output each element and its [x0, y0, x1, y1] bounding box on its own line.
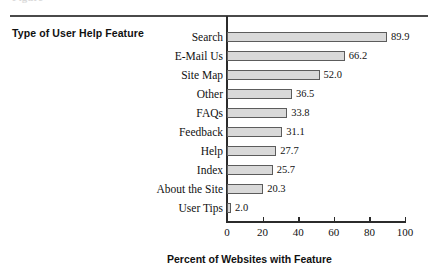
- bar-row: Index25.7: [0, 161, 441, 180]
- x-axis-tick-label: 60: [319, 226, 349, 238]
- category-label: Feedback: [179, 126, 223, 138]
- bar-row: Other36.5: [0, 85, 441, 104]
- x-axis-tick-label: 20: [248, 226, 278, 238]
- x-axis-line: [226, 221, 406, 223]
- x-axis-tick: [263, 217, 264, 221]
- bar: [227, 32, 387, 42]
- bar: [227, 70, 320, 80]
- x-axis-tick: [298, 217, 299, 221]
- bar: [227, 127, 282, 137]
- category-label: Index: [197, 164, 223, 176]
- bar: [227, 108, 287, 118]
- bar: [227, 51, 345, 61]
- category-label: About the Site: [157, 183, 223, 195]
- bar-value-label: 27.7: [280, 145, 298, 156]
- x-axis-tick-label: 0: [212, 226, 242, 238]
- x-axis-tick-label: 80: [354, 226, 384, 238]
- category-label: Other: [197, 88, 223, 100]
- bar: [227, 184, 263, 194]
- bar-row: Feedback31.1: [0, 123, 441, 142]
- bar-value-label: 20.3: [267, 183, 285, 194]
- bar: [227, 203, 231, 213]
- bar-value-label: 66.2: [349, 50, 367, 61]
- category-label: Help: [201, 145, 223, 157]
- bar: [227, 165, 273, 175]
- category-label: Search: [192, 31, 223, 43]
- bar-value-label: 52.0: [324, 69, 342, 80]
- x-axis-tick: [334, 217, 335, 221]
- bar-row: Site Map52.0: [0, 66, 441, 85]
- bar-row: Help27.7: [0, 142, 441, 161]
- x-axis-title: Percent of Websites with Feature: [0, 253, 441, 265]
- bar-value-label: 33.8: [291, 107, 309, 118]
- x-axis-tick: [405, 217, 406, 221]
- bar-row: E-Mail Us66.2: [0, 47, 441, 66]
- bar: [227, 89, 292, 99]
- bar-row: Search89.9: [0, 28, 441, 47]
- bar-value-label: 31.1: [286, 126, 304, 137]
- bar-row: FAQs33.8: [0, 104, 441, 123]
- bar: [227, 146, 276, 156]
- x-axis-tick-label: 40: [283, 226, 313, 238]
- bar-value-label: 36.5: [296, 88, 314, 99]
- bar-row: User Tips2.0: [0, 199, 441, 218]
- bar-row: About the Site20.3: [0, 180, 441, 199]
- category-label: FAQs: [196, 107, 223, 119]
- x-axis-tick-label: 100: [390, 226, 420, 238]
- bar-value-label: 25.7: [277, 164, 295, 175]
- bar-value-label: 2.0: [235, 202, 248, 213]
- x-axis-tick: [369, 217, 370, 221]
- category-label: E-Mail Us: [175, 50, 223, 62]
- bar-chart-plot: Search89.9E-Mail Us66.2Site Map52.0Other…: [0, 0, 441, 274]
- category-label: User Tips: [179, 202, 223, 214]
- category-label: Site Map: [181, 69, 223, 81]
- bar-value-label: 89.9: [391, 31, 409, 42]
